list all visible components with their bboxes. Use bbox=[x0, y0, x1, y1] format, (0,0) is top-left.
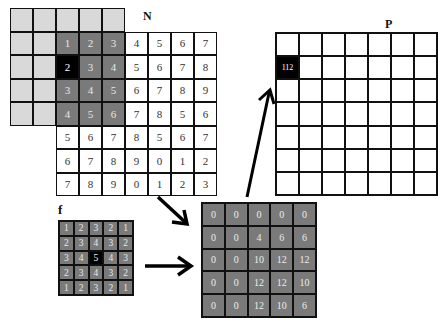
arrow-f-to-product-icon bbox=[145, 257, 191, 275]
arrow-n-to-product-icon bbox=[158, 197, 187, 224]
arrow-product-to-p-icon bbox=[247, 90, 274, 197]
arrows-layer bbox=[0, 0, 446, 330]
